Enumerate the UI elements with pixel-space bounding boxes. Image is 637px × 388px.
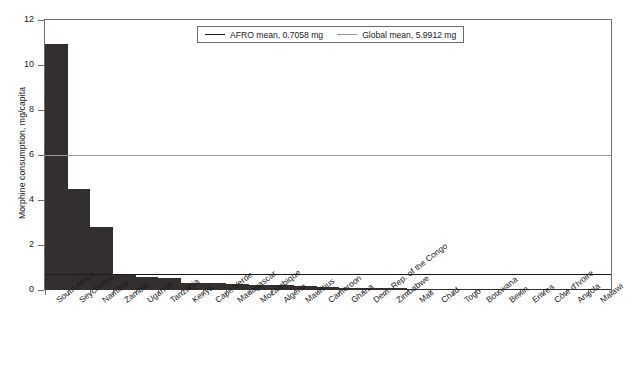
reference-line-global-mean [45, 155, 611, 156]
y-axis-tick-label: 2 [0, 239, 34, 249]
x-axis-tick [475, 290, 476, 295]
y-axis-tick-label: 6 [0, 149, 34, 159]
x-axis-tick-label: Mali [417, 287, 435, 304]
y-axis-tick [38, 65, 44, 66]
x-axis-tick [249, 290, 250, 295]
y-axis-tick [38, 245, 44, 246]
x-axis-tick [90, 290, 91, 295]
x-axis-tick [113, 290, 114, 295]
x-axis-tick [362, 290, 363, 295]
x-axis-tick [566, 290, 567, 295]
y-axis-tick [38, 200, 44, 201]
x-axis-tick [158, 290, 159, 295]
y-axis-tick-label: 10 [0, 59, 34, 69]
y-axis-tick [38, 20, 44, 21]
y-axis-tick-label: 12 [0, 14, 34, 24]
x-axis-tick [430, 290, 431, 295]
x-axis-tick [294, 290, 295, 295]
x-axis-tick [385, 290, 386, 295]
y-axis-tick [38, 110, 44, 111]
legend-entry-global-mean: Global mean, 5.9912 mg [337, 30, 456, 40]
chart-legend: AFRO mean, 0.7058 mg Global mean, 5.9912… [197, 26, 464, 43]
x-axis-tick [339, 290, 340, 295]
x-axis-tick [317, 290, 318, 295]
legend-line-icon-global [337, 34, 357, 35]
x-axis-tick [407, 290, 408, 295]
y-axis-tick-label: 8 [0, 104, 34, 114]
x-axis-tick [498, 290, 499, 295]
x-axis-tick [226, 290, 227, 295]
legend-line-icon-afro [205, 34, 225, 35]
x-axis-tick [611, 290, 612, 295]
x-axis-tick [45, 290, 46, 295]
reference-line-afro-mean [45, 274, 611, 275]
x-axis-tick [520, 290, 521, 295]
x-axis-tick [181, 290, 182, 295]
morphine-consumption-bar-chart: Morphine consumption, mg/capita South Af… [0, 0, 637, 388]
y-axis-tick-label: 0 [0, 284, 34, 294]
x-axis-tick [588, 290, 589, 295]
x-axis-tick [203, 290, 204, 295]
legend-entry-afro-mean: AFRO mean, 0.7058 mg [205, 30, 323, 40]
x-axis-tick [453, 290, 454, 295]
y-axis-tick [38, 290, 44, 291]
x-axis-tick [543, 290, 544, 295]
x-axis-tick [68, 290, 69, 295]
x-axis-tick [271, 290, 272, 295]
y-axis-tick [38, 155, 44, 156]
y-axis-tick-label: 4 [0, 194, 34, 204]
bar [45, 44, 68, 290]
legend-label-afro: AFRO mean, 0.7058 mg [230, 30, 323, 40]
x-axis-tick [136, 290, 137, 295]
legend-label-global: Global mean, 5.9912 mg [362, 30, 456, 40]
